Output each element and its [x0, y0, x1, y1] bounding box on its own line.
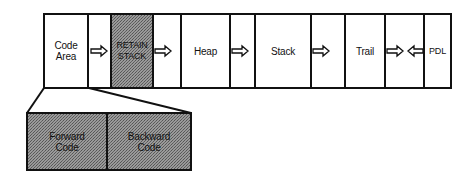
- retain-stack-label: RETAIN STACK: [111, 40, 153, 62]
- forward-code-label: Forward Code: [27, 131, 107, 153]
- retain-stack-label-line1: RETAIN: [111, 40, 153, 51]
- backward-code-label: Backward Code: [107, 131, 191, 153]
- arrow-left-icon: [408, 46, 423, 56]
- arrow-right-icon: [91, 46, 107, 56]
- arrow-right-icon: [387, 46, 403, 56]
- code-area-label-line1: Code: [44, 40, 88, 51]
- forward-code-label-line2: Code: [27, 142, 107, 153]
- backward-code-label-line1: Backward: [107, 131, 191, 142]
- pdl-label: PDL: [424, 46, 451, 57]
- code-area-label: Code Area: [44, 40, 88, 62]
- heap-label: Heap: [181, 46, 230, 57]
- code-area-label-line2: Area: [44, 51, 88, 62]
- zoom-line-left: [27, 88, 44, 113]
- forward-code-label-line1: Forward: [27, 131, 107, 142]
- stack-label: Stack: [255, 46, 311, 57]
- trail-label: Trail: [345, 46, 385, 57]
- arrow-right-icon: [155, 46, 171, 56]
- zoom-line-right: [89, 88, 191, 113]
- backward-code-label-line2: Code: [107, 142, 191, 153]
- arrow-right-icon: [232, 46, 248, 56]
- arrow-right-icon: [313, 46, 329, 56]
- memory-layout-diagram: Code Area RETAIN STACK Heap Stack Trail …: [0, 0, 475, 182]
- retain-stack-label-line2: STACK: [111, 51, 153, 62]
